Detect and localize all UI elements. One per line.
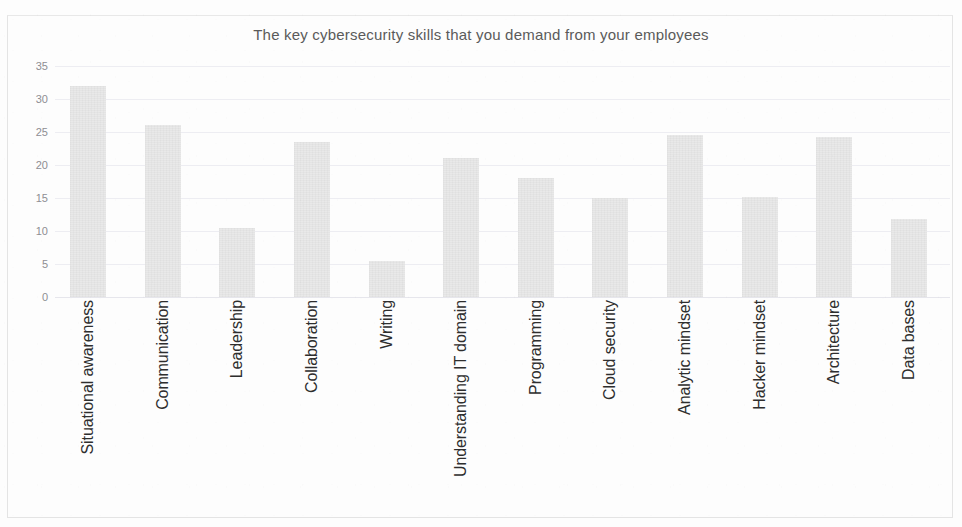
x-axis-label-text: Situational awareness [79, 300, 97, 454]
x-axis-label-text: Analytic mindset [676, 300, 694, 415]
x-axis-label: Leadership [219, 300, 255, 520]
bar [891, 219, 927, 297]
y-axis-tick-label: 30 [14, 93, 48, 105]
x-axis-label: Situational awareness [70, 300, 106, 520]
plot-area [55, 66, 950, 297]
gridline [55, 99, 950, 100]
y-axis-tick-label: 5 [14, 258, 48, 270]
gridline [55, 297, 950, 298]
y-axis-tick-label: 0 [14, 291, 48, 303]
y-axis-tick-label: 35 [14, 60, 48, 72]
bar [742, 197, 778, 297]
x-axis-label-text: Architecture [825, 300, 843, 384]
bar [518, 178, 554, 297]
x-axis-label-text: Data bases [900, 300, 918, 380]
bar [667, 135, 703, 297]
x-axis-label-text: Hacker mindset [751, 300, 769, 410]
x-axis-label-text: Understanding IT domain [452, 300, 470, 477]
gridline [55, 66, 950, 67]
x-axis-label-text: Cloud security [601, 300, 619, 400]
x-axis-label: Writing [369, 300, 405, 520]
gridline [55, 132, 950, 133]
x-axis-label-text: Writing [378, 300, 396, 349]
scanned-page: The key cybersecurity skills that you de… [0, 0, 962, 527]
x-axis-label: Programming [518, 300, 554, 520]
bar [369, 261, 405, 297]
x-axis-category-labels: Situational awarenessCommunicationLeader… [55, 300, 950, 527]
x-axis-label-text: Leadership [228, 300, 246, 378]
x-axis-label: Cloud security [592, 300, 628, 520]
x-axis-label: Architecture [816, 300, 852, 520]
x-axis-label: Analytic mindset [667, 300, 703, 520]
bar [70, 86, 106, 297]
y-axis: 05101520253035 [10, 66, 48, 297]
x-axis-label: Communication [145, 300, 181, 520]
y-axis-tick-label: 15 [14, 192, 48, 204]
bar [294, 142, 330, 297]
bar [816, 137, 852, 297]
x-axis-label: Hacker mindset [742, 300, 778, 520]
bar [592, 198, 628, 297]
y-axis-tick-label: 25 [14, 126, 48, 138]
y-axis-tick-label: 20 [14, 159, 48, 171]
chart-title: The key cybersecurity skills that you de… [0, 26, 962, 43]
x-axis-label-text: Collaboration [303, 300, 321, 393]
x-axis-label: Understanding IT domain [443, 300, 479, 520]
x-axis-label-text: Programming [527, 300, 545, 395]
y-axis-tick-label: 10 [14, 225, 48, 237]
bar [145, 125, 181, 297]
x-axis-label-text: Communication [154, 300, 172, 410]
x-axis-label: Data bases [891, 300, 927, 520]
bar [219, 228, 255, 297]
bar [443, 158, 479, 297]
x-axis-label: Collaboration [294, 300, 330, 520]
